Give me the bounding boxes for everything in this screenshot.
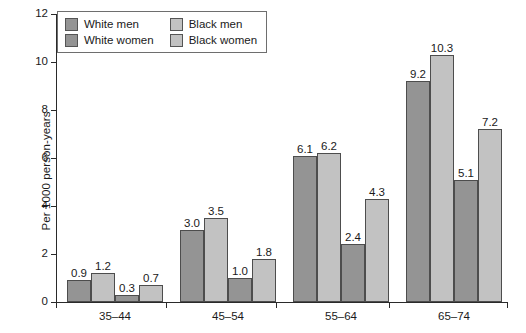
bar-white-women-55-64: 2.4 [341, 244, 365, 302]
bar-label-black-men-65-74: 10.3 [431, 42, 453, 54]
y-tick-label-2: 2 [42, 247, 48, 259]
legend-swatch-black-men-icon [170, 18, 183, 31]
bar-white-men-65-74: 9.2 [406, 81, 430, 302]
bar-white-men-45-54: 3.0 [180, 230, 204, 302]
bar-label-white-women-65-74: 5.1 [458, 167, 474, 179]
x-axis-label-35-44: 35–44 [67, 310, 163, 322]
x-tick-4 [507, 303, 508, 308]
y-tick-label-8: 8 [42, 103, 48, 115]
y-axis-line [56, 14, 57, 303]
bar-black-men-65-74: 10.3 [430, 55, 454, 302]
legend: White men Black men White women Black wo… [57, 11, 267, 53]
y-tick-label-10: 10 [35, 55, 48, 67]
bar-label-white-men-45-54: 3.0 [184, 217, 200, 229]
bar-black-women-55-64: 4.3 [365, 199, 389, 302]
x-axis-label-65-74: 65–74 [406, 310, 502, 322]
y-tick-label-12: 12 [35, 7, 48, 19]
bar-label-white-women-55-64: 2.4 [345, 231, 361, 243]
x-tick-1 [166, 303, 167, 308]
legend-item-white-men: White men [65, 17, 154, 31]
bar-label-black-men-45-54: 3.5 [208, 205, 224, 217]
y-tick-label-0: 0 [42, 295, 48, 307]
bar-chart: Per 1000 person-years 12 10 8 6 4 2 [0, 0, 526, 333]
bar-group-35-44: 0.9 1.2 0.3 0.7 35–44 [67, 14, 166, 302]
bar-label-black-women-55-64: 4.3 [369, 186, 385, 198]
bar-black-men-45-54: 3.5 [204, 218, 228, 302]
legend-item-black-men: Black men [170, 17, 257, 31]
x-axis-label-45-54: 45–54 [180, 310, 276, 322]
bar-label-white-men-65-74: 9.2 [410, 68, 426, 80]
bar-label-black-women-65-74: 7.2 [482, 116, 498, 128]
bar-group-55-64: 6.1 6.2 2.4 4.3 55–64 [293, 14, 392, 302]
legend-item-white-women: White women [65, 33, 154, 47]
bar-label-white-women-35-44: 0.3 [119, 282, 135, 294]
x-axis-line [56, 302, 508, 303]
legend-label-white-men: White men [84, 17, 139, 31]
legend-swatch-black-women-icon [170, 34, 183, 47]
y-tick-label-4: 4 [42, 199, 48, 211]
bar-white-women-35-44: 0.3 [115, 295, 139, 302]
bar-group-45-54: 3.0 3.5 1.0 1.8 45–54 [180, 14, 279, 302]
bar-label-white-men-55-64: 6.1 [297, 143, 313, 155]
bar-white-women-65-74: 5.1 [454, 180, 478, 302]
bar-label-black-women-35-44: 0.7 [143, 272, 159, 284]
bar-black-men-35-44: 1.2 [91, 273, 115, 302]
bar-black-men-55-64: 6.2 [317, 153, 341, 302]
bar-black-women-35-44: 0.7 [139, 285, 163, 302]
x-axis-label-55-64: 55–64 [293, 310, 389, 322]
x-tick-2b [276, 303, 277, 308]
bar-label-white-women-45-54: 1.0 [232, 265, 248, 277]
bar-white-men-35-44: 0.9 [67, 280, 91, 302]
legend-label-black-women: Black women [189, 33, 257, 47]
bar-label-white-men-35-44: 0.9 [71, 267, 87, 279]
plot-area: 12 10 8 6 4 2 0 [56, 14, 508, 302]
bar-group-65-74: 9.2 10.3 5.1 7.2 65–74 [406, 14, 505, 302]
legend-item-black-women: Black women [170, 33, 257, 47]
legend-label-white-women: White women [84, 33, 154, 47]
bar-label-black-men-35-44: 1.2 [95, 260, 111, 272]
bar-black-women-45-54: 1.8 [252, 259, 276, 302]
legend-swatch-white-men-icon [65, 18, 78, 31]
legend-swatch-white-women-icon [65, 34, 78, 47]
bar-label-black-women-45-54: 1.8 [256, 246, 272, 258]
bar-white-women-45-54: 1.0 [228, 278, 252, 302]
y-tick-label-6: 6 [42, 151, 48, 163]
bar-label-black-men-55-64: 6.2 [321, 140, 337, 152]
x-tick-2 [56, 303, 57, 308]
x-tick-3 [389, 303, 390, 308]
bar-black-women-65-74: 7.2 [478, 129, 502, 302]
legend-label-black-men: Black men [189, 17, 243, 31]
bar-white-men-55-64: 6.1 [293, 156, 317, 302]
